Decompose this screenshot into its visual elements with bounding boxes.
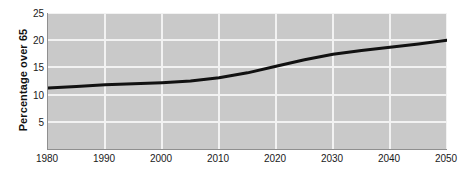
series-line-percentage-over-65	[48, 40, 447, 88]
x-tick-label: 2030	[321, 153, 343, 165]
x-tick-label: 1980	[36, 153, 58, 165]
y-tick-label: 10	[24, 89, 44, 100]
chart-figure: Percentage over 65 510152025 19801990200…	[0, 0, 466, 183]
x-axis-tick-labels: 19801990200020102020203020402050	[47, 153, 446, 167]
x-tick-label: 2000	[150, 153, 172, 165]
x-tick-label: 2050	[435, 153, 457, 165]
plot-area	[47, 13, 447, 150]
data-line-svg	[48, 13, 447, 149]
y-tick-label: 15	[24, 62, 44, 73]
y-tick-label: 20	[24, 35, 44, 46]
y-tick-label: 25	[24, 8, 44, 19]
y-axis-tick-labels: 510152025	[24, 8, 44, 149]
x-tick-label: 2010	[207, 153, 229, 165]
x-tick-label: 2020	[264, 153, 286, 165]
y-tick-label: 5	[24, 116, 44, 127]
x-tick-label: 2040	[378, 153, 400, 165]
x-tick-label: 1990	[93, 153, 115, 165]
